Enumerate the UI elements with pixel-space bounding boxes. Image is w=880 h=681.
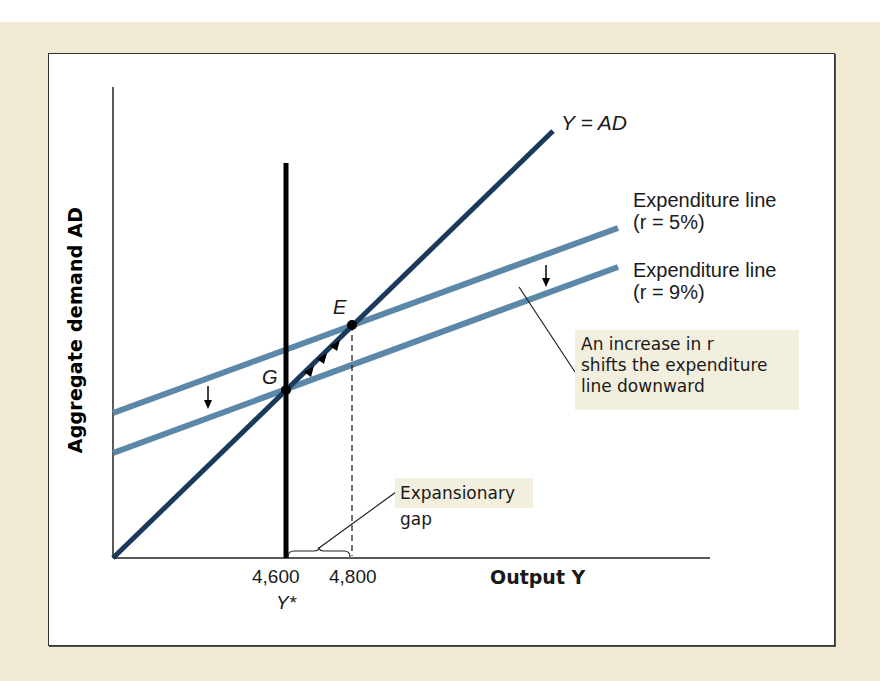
gap-leader — [319, 492, 396, 548]
label-point-e: E — [333, 296, 346, 319]
label-expenditure-r5-line2: (r = 5%) — [633, 211, 776, 233]
point-e-marker — [347, 320, 357, 330]
tick-4800: 4,800 — [329, 566, 377, 588]
tick-y-star: Y* — [276, 592, 296, 614]
x-axis-label: Output Y — [490, 566, 585, 588]
down-arrow-right-icon — [542, 265, 550, 287]
label-expenditure-r9: Expenditure line (r = 9%) — [633, 259, 776, 303]
note-expansionary-gap: Expansionary gap — [395, 478, 533, 508]
expenditure-line-r9 — [113, 267, 618, 453]
shift-note-leader — [519, 287, 575, 372]
y-axis-label: Aggregate demand AD — [64, 207, 86, 453]
label-expenditure-r5-line1: Expenditure line — [633, 189, 776, 211]
note-shift-line3: line downward — [581, 376, 793, 397]
label-expenditure-r9-line1: Expenditure line — [633, 259, 776, 281]
tick-4600: 4,600 — [252, 566, 300, 588]
label-expenditure-r5: Expenditure line (r = 5%) — [633, 189, 776, 233]
note-shift: An increase in r shifts the expenditure … — [575, 330, 799, 410]
label-expenditure-r9-line2: (r = 9%) — [633, 281, 776, 303]
point-g-marker — [281, 385, 291, 395]
expenditure-line-r5 — [113, 228, 618, 413]
gap-brace — [288, 547, 350, 557]
note-shift-line2: shifts the expenditure — [581, 355, 793, 376]
down-arrow-left-icon — [204, 386, 212, 409]
label-y-equals-ad: Y = AD — [561, 111, 627, 135]
label-point-g: G — [262, 366, 278, 389]
note-shift-line1: An increase in r — [581, 334, 793, 355]
